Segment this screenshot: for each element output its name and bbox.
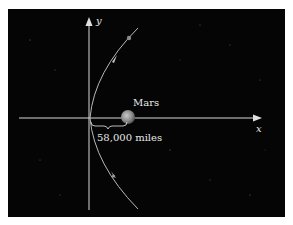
y-axis-arrow-icon <box>86 17 93 26</box>
direction-arrow-icon <box>112 174 115 177</box>
distance-label: 58,000 miles <box>97 132 162 143</box>
x-axis <box>19 115 262 122</box>
y-axis <box>86 17 93 210</box>
y-axis-label: y <box>95 15 102 26</box>
parabola-diagram: x y Mars 58,000 miles <box>0 0 293 225</box>
x-axis-arrow-icon <box>253 115 262 122</box>
mars-label: Mars <box>133 97 159 108</box>
stars <box>29 24 265 195</box>
distance-brace <box>91 122 127 129</box>
mars-planet-icon <box>121 110 135 124</box>
spacecraft-icon <box>127 36 131 40</box>
x-axis-label: x <box>256 123 262 134</box>
